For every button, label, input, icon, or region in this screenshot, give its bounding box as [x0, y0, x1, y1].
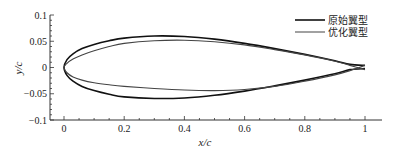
y-tick-label: −0.05 [24, 88, 47, 99]
x-tick-label: 0.8 [299, 123, 312, 134]
airfoil-curves [64, 36, 365, 99]
legend-label-optimized: 优化翼型 [328, 26, 368, 38]
y-tick-label: 0.1 [35, 10, 48, 21]
x-tick-label: 0.4 [178, 123, 191, 134]
y-axis-label: y/c [12, 61, 24, 75]
y-tick-label: 0 [42, 62, 47, 73]
x-tick-label: 1 [363, 123, 368, 134]
original-airfoil-curve [64, 36, 365, 99]
y-tick-label: −0.1 [29, 115, 47, 126]
optimized-airfoil-curve [64, 40, 365, 90]
x-axis-label: x/c [198, 136, 212, 148]
x-tick-label: 0.2 [118, 123, 131, 134]
plot-area: 0.10.050−0.05−0.100.20.40.60.81 原始翼型 优化翼… [0, 0, 393, 156]
legend: 原始翼型 优化翼型 [295, 14, 368, 38]
airfoil-chart: 0.10.050−0.05−0.100.20.40.60.81 原始翼型 优化翼… [0, 0, 393, 156]
y-tick-label: 0.05 [30, 36, 48, 47]
legend-label-original: 原始翼型 [328, 14, 368, 26]
x-tick-label: 0 [62, 123, 67, 134]
x-tick-label: 0.6 [238, 123, 251, 134]
